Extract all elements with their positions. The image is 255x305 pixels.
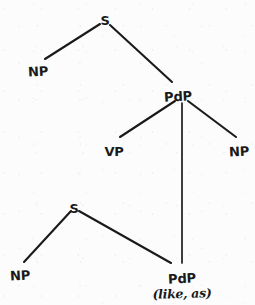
tree-edge-pdp-mid-to-vp <box>120 101 175 137</box>
tree-edges-canvas <box>0 0 255 305</box>
tree-edge-s-top-to-pdp-mid <box>110 25 172 82</box>
tree-node-s-top: S <box>100 14 109 28</box>
terminal-gloss-pdp-bottom-gloss: (like, as) <box>152 285 211 302</box>
tree-node-pdp-bottom: PdP <box>168 271 196 286</box>
tree-node-np-lower: NP <box>10 268 31 283</box>
tree-node-pdp-mid: PdP <box>164 89 192 104</box>
edges-group <box>24 24 236 263</box>
tree-node-np-top: NP <box>28 64 49 79</box>
tree-node-vp: VP <box>104 145 123 159</box>
tree-edge-s-lower-to-pdp-bottom <box>79 211 171 263</box>
tree-edge-s-top-to-np-top <box>45 24 100 59</box>
syntax-tree-diagram: SNPPdPVPNPSNPPdP(like, as) <box>0 0 255 305</box>
tree-node-np-right: NP <box>229 144 250 159</box>
tree-edge-s-lower-to-np-lower <box>24 211 71 262</box>
tree-edge-pdp-mid-to-np-right <box>188 101 236 137</box>
tree-node-s-lower: S <box>69 202 78 216</box>
